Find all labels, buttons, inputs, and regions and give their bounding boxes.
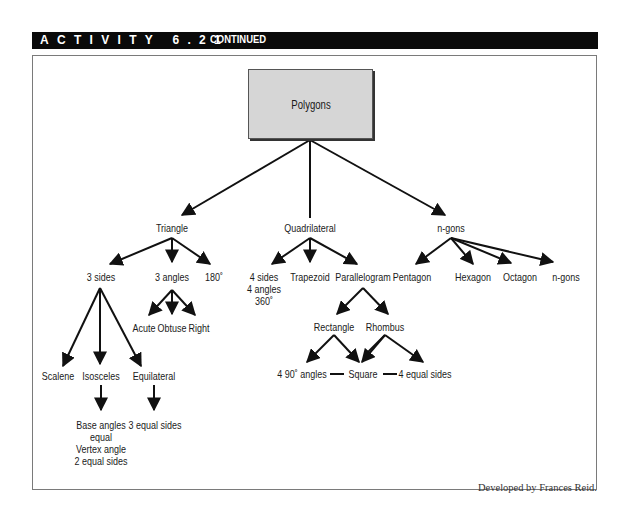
- node-3-angles: 3 angles: [155, 271, 189, 284]
- node-acute: Acute: [133, 322, 156, 335]
- node-rhombus: Rhombus: [366, 321, 404, 334]
- node-quadrilateral: Quadrilateral: [284, 222, 335, 235]
- node-square: Square: [349, 368, 378, 381]
- node-trapezoid: Trapezoid: [290, 271, 330, 284]
- node-3-sides: 3 sides: [87, 271, 115, 284]
- quad-prop-360: 360˚: [255, 295, 273, 308]
- node-isosceles: Isosceles: [82, 370, 119, 383]
- credit-text: Developed by Frances Reid.: [478, 482, 597, 493]
- node-equilateral: Equilateral: [133, 370, 175, 383]
- node-right: Right: [189, 322, 210, 335]
- node-4-90-angles: 4 90˚ angles: [277, 368, 326, 381]
- node-4-equal-sides: 4 equal sides: [399, 368, 452, 381]
- node-scalene: Scalene: [42, 370, 74, 383]
- node-ngons: n-gons: [437, 222, 464, 235]
- node-180-degrees: 180˚: [205, 271, 223, 284]
- node-hexagon: Hexagon: [455, 271, 491, 284]
- node-parallelogram: Parallelogram: [335, 271, 390, 284]
- node-3-equal-sides: 3 equal sides: [129, 419, 182, 432]
- node-n-gons-leaf: n-gons: [552, 271, 579, 284]
- node-obtuse: Obtuse: [158, 322, 187, 335]
- root-node-polygons: Polygons: [248, 69, 373, 139]
- root-label: Polygons: [291, 98, 331, 112]
- node-triangle: Triangle: [156, 222, 188, 235]
- node-pentagon: Pentagon: [393, 271, 431, 284]
- isosceles-prop-4: 2 equal sides: [75, 455, 128, 468]
- node-octagon: Octagon: [503, 271, 537, 284]
- node-rectangle: Rectangle: [314, 321, 354, 334]
